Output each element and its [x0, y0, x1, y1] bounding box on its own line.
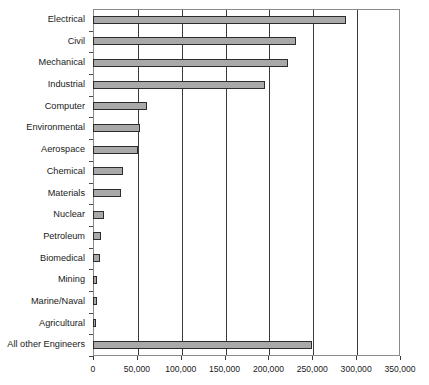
- value-tick: [181, 356, 182, 360]
- value-tick-label: 100,000: [165, 364, 196, 374]
- bar-row: [93, 226, 400, 248]
- bar: [93, 297, 97, 305]
- value-tick: [400, 356, 401, 360]
- bar-row: [93, 183, 400, 205]
- bars-layer: [93, 9, 400, 356]
- value-tick: [356, 356, 357, 360]
- category-label: Biomedical: [40, 248, 85, 270]
- bar: [93, 146, 138, 154]
- bar: [93, 81, 265, 89]
- value-tick-label: 300,000: [341, 364, 372, 374]
- category-label: Environmental: [26, 117, 85, 139]
- bar: [93, 102, 147, 110]
- bar: [93, 59, 288, 67]
- bar: [93, 211, 104, 219]
- category-label: Industrial: [48, 74, 85, 96]
- bar: [93, 254, 100, 262]
- bar: [93, 37, 296, 45]
- bar-row: [93, 74, 400, 96]
- value-tick: [225, 356, 226, 360]
- bar-chart: ElectricalCivilMechanicalIndustrialCompu…: [0, 0, 429, 385]
- bar-row: [93, 9, 400, 31]
- category-label: Mining: [58, 269, 85, 291]
- bar-row: [93, 161, 400, 183]
- bar: [93, 341, 312, 349]
- bar-row: [93, 313, 400, 335]
- bar: [93, 319, 96, 327]
- category-label: Petroleum: [43, 226, 85, 248]
- bar-row: [93, 117, 400, 139]
- bar-row: [93, 291, 400, 313]
- value-tick-label: 50,000: [124, 364, 150, 374]
- value-tick: [137, 356, 138, 360]
- bar: [93, 189, 121, 197]
- category-label: Computer: [45, 96, 85, 118]
- category-label: Agricultural: [39, 313, 85, 335]
- value-tick-label: 350,000: [384, 364, 415, 374]
- category-label: Marine/Naval: [31, 291, 85, 313]
- value-tick-label: 0: [91, 364, 96, 374]
- bar-row: [93, 52, 400, 74]
- value-tick-label: 150,000: [209, 364, 240, 374]
- bar-row: [93, 139, 400, 161]
- category-label: Materials: [48, 183, 85, 205]
- category-label: Mechanical: [39, 52, 85, 74]
- value-tick: [268, 356, 269, 360]
- value-tick-label: 250,000: [297, 364, 328, 374]
- category-label: All other Engineers: [7, 334, 85, 356]
- value-axis: 050,000100,000150,000200,000250,000300,0…: [93, 356, 400, 385]
- bar-row: [93, 269, 400, 291]
- bar: [93, 276, 97, 284]
- bar-row: [93, 204, 400, 226]
- category-label: Aerospace: [41, 139, 85, 161]
- value-tick-label: 200,000: [253, 364, 284, 374]
- bar: [93, 167, 123, 175]
- bar-row: [93, 248, 400, 270]
- bar: [93, 232, 101, 240]
- bar-row: [93, 96, 400, 118]
- bar-row: [93, 334, 400, 356]
- bar: [93, 16, 346, 24]
- category-label: Nuclear: [53, 204, 85, 226]
- bar: [93, 124, 140, 132]
- category-label: Electrical: [48, 9, 85, 31]
- category-label: Chemical: [47, 161, 85, 183]
- category-axis: ElectricalCivilMechanicalIndustrialCompu…: [0, 9, 90, 356]
- value-tick: [312, 356, 313, 360]
- value-tick: [93, 356, 94, 360]
- category-label: Civil: [68, 31, 85, 53]
- bar-row: [93, 31, 400, 53]
